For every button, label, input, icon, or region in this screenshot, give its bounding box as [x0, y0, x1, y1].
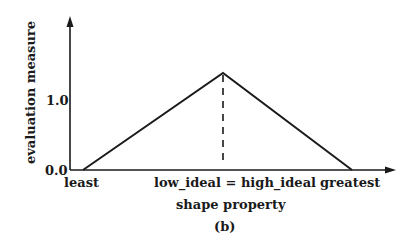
x-tick-ideal: low_ideal = high_ideal [154, 176, 316, 189]
figure: evaluation measure 1.0 0.0 least low_ide… [0, 0, 412, 246]
x-tick-least: least [64, 176, 99, 189]
evaluation-curve [83, 73, 352, 170]
x-axis-arrow-icon [385, 167, 396, 174]
y-axis-label: evaluation measure [24, 18, 37, 168]
x-axis-label: shape property [176, 198, 285, 211]
x-tick-greatest: greatest [320, 176, 380, 189]
y-tick-1: 1.0 [46, 94, 69, 107]
y-axis-arrow-icon [67, 16, 74, 27]
figure-caption: (b) [214, 220, 235, 233]
